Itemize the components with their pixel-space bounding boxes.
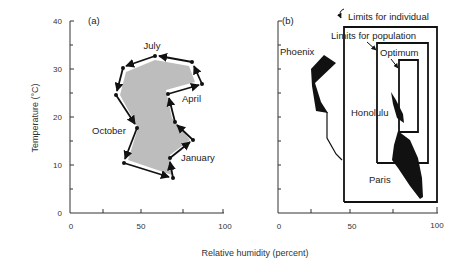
panel-a: 40 30 20 10 0 0 50 100 (a) — [53, 15, 232, 231]
x-ticks-b — [311, 207, 437, 213]
label-limits-population: Limits for population — [331, 30, 416, 41]
x-tick-100-b: 100 — [430, 221, 444, 230]
label-limits-individual: Limits for individual — [348, 11, 429, 22]
pointer-population — [367, 42, 376, 50]
x-tick-50-b: 50 — [348, 222, 357, 231]
panel-a-label: (a) — [88, 15, 100, 26]
label-optimum: Optimum — [380, 47, 419, 58]
x-tick-0-a: 0 — [69, 222, 74, 231]
climograph-figure: 40 30 20 10 0 0 50 100 (a) — [0, 0, 461, 261]
x-tick-0-b: 0 — [277, 222, 282, 231]
y-tick-0: 0 — [58, 209, 63, 218]
x-tick-100-a: 100 — [218, 222, 232, 231]
y-tick-20: 20 — [53, 113, 62, 122]
x-axis-title: Relative humidity (percent) — [201, 248, 308, 258]
y-ticks-a — [70, 21, 74, 189]
label-july: July — [144, 40, 161, 51]
phoenix-tail — [327, 112, 342, 160]
panel-b-label: (b) — [282, 15, 294, 26]
x-tick-50-a: 50 — [137, 222, 146, 231]
y-tick-10: 10 — [53, 161, 62, 170]
pointer-individual — [340, 9, 344, 18]
label-october: October — [92, 125, 126, 136]
label-april: April — [182, 93, 201, 104]
phoenix-region — [311, 55, 336, 113]
y-axis-title: Temperature (°C) — [30, 83, 40, 152]
panel-b: 0 50 100 (b) Limits for individual Limit… — [277, 9, 444, 231]
honolulu-region — [391, 92, 404, 123]
label-january: January — [181, 152, 215, 163]
pointer-optimum — [391, 59, 398, 68]
y-tick-30: 30 — [53, 65, 62, 74]
label-phoenix: Phoenix — [280, 46, 315, 57]
x-ticks-a — [103, 209, 223, 213]
label-paris: Paris — [369, 174, 391, 185]
y-tick-40: 40 — [53, 17, 62, 26]
label-honolulu: Honolulu — [351, 107, 389, 118]
paris-region — [392, 131, 423, 199]
